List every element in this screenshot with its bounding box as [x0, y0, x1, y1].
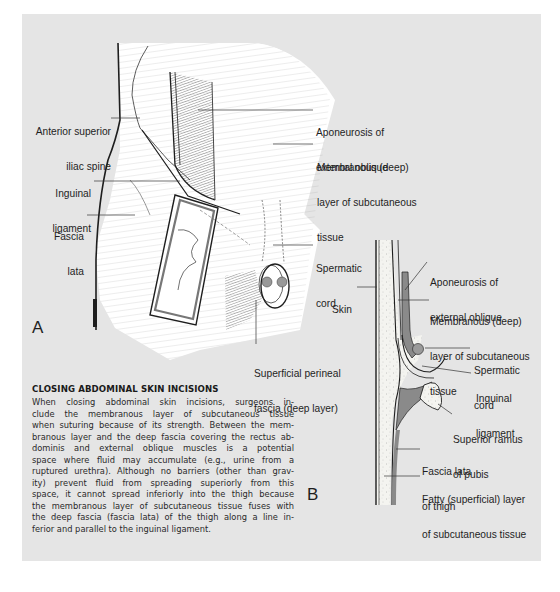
- label-a-membranous: Membranous (deep) layer of subcutaneous …: [317, 139, 417, 255]
- label-a-fascia-lata: Fascia lata: [54, 208, 84, 289]
- label-line: Skin: [332, 304, 352, 316]
- label-line: lata: [54, 266, 84, 278]
- clinical-note: CLOSING ABDOMINAL SKIN INCISIONS When cl…: [32, 384, 294, 535]
- label-line: Membranous (deep): [430, 316, 530, 328]
- label-line: Inguinal: [52, 188, 91, 200]
- label-line: of subcutaneous tissue: [422, 529, 526, 541]
- label-b-skin: Skin: [332, 281, 352, 327]
- label-line: Anterior superior: [36, 126, 111, 138]
- note-title: CLOSING ABDOMINAL SKIN INCISIONS: [32, 384, 294, 394]
- note-line: space, it cannot spread inferiorly into …: [32, 489, 294, 501]
- label-line: Aponeurosis of: [316, 127, 388, 139]
- note-line: ruptured urethra). Although no barriers …: [32, 466, 294, 478]
- figure-a-letter: A: [32, 318, 43, 338]
- note-line: branous layer and the deep fascia coveri…: [32, 432, 294, 444]
- label-line: Spermatic: [316, 263, 362, 275]
- figure-b-letter: B: [307, 485, 318, 505]
- note-line: ferior and parallel to the inguinal liga…: [32, 524, 294, 536]
- note-line: space where fluid may accumulate (e.g., …: [32, 455, 294, 467]
- note-line: ity) prevent fluid from spreading superi…: [32, 478, 294, 490]
- figure-a-drawing: [93, 43, 335, 360]
- label-line: Inguinal: [476, 393, 515, 405]
- note-line: dominis and external oblique muscles is …: [32, 443, 294, 455]
- note-line: When closing abdominal skin incisions, s…: [32, 397, 294, 409]
- label-line: Membranous (deep): [317, 162, 417, 174]
- note-line: when suturing because of its strength. B…: [32, 420, 294, 432]
- note-line: clude the membranous layer of subcutaneo…: [32, 409, 294, 421]
- label-b-fatty-layer: Fatty (superficial) layer of subcutaneou…: [422, 471, 526, 552]
- label-line: Aponeurosis of: [430, 277, 502, 289]
- label-line: Fascia: [54, 231, 84, 243]
- note-line: the deep fascia (fascia lata) of the thi…: [32, 512, 294, 524]
- note-line: the membranous layer of subcutaneous tis…: [32, 501, 294, 513]
- label-line: layer of subcutaneous: [317, 197, 417, 209]
- label-line: Superficial perineal: [254, 368, 341, 380]
- label-line: Fatty (superficial) layer: [422, 494, 526, 506]
